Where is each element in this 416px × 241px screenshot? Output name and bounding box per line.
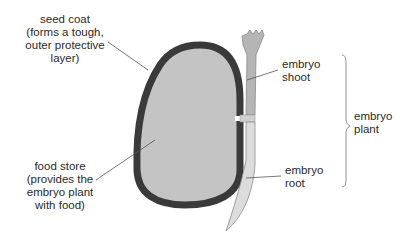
embryo-plant-bracket: [342, 55, 350, 187]
embryo-root-label: embryo root: [285, 164, 323, 190]
embryo-plant-label: embryo plant: [354, 110, 392, 136]
embryo-connector: [240, 115, 255, 122]
seed-coat: [137, 45, 240, 205]
embryo-shoot: [242, 30, 264, 115]
seed-coat-label: seed coat (forms a tough, outer protecti…: [20, 13, 110, 65]
embryo-shoot-label: embryo shoot: [282, 58, 320, 84]
seed-coat-leader: [108, 42, 148, 70]
food-store-label: food store (provides the embryo plant wi…: [20, 160, 100, 212]
